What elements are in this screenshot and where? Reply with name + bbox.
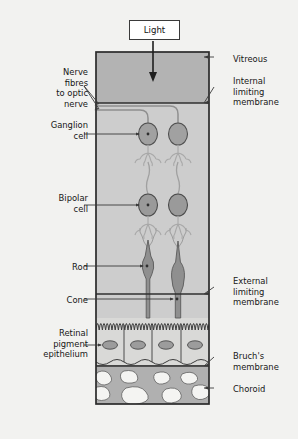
ganglion-cell-2 <box>169 123 188 145</box>
label-bipolar-cell: Bipolar cell <box>10 193 88 214</box>
label-retinal-pigment-epithelium: Retinal pigment epithelium <box>4 328 88 360</box>
rpe-nucleus-3 <box>159 341 174 349</box>
retina-diagram-svg <box>0 0 298 439</box>
label-vitreous: Vitreous <box>233 54 295 65</box>
label-internal-limiting-membrane: Internal limiting membrane <box>233 76 295 108</box>
rpe-nucleus-4 <box>188 341 203 349</box>
label-rod: Rod <box>10 262 88 273</box>
label-choroid: Choroid <box>233 384 295 395</box>
light-source-box: Light <box>129 20 180 40</box>
label-external-limiting-membrane: External limiting membrane <box>233 276 295 308</box>
label-nerve-fibres-to-optic-nerve: Nerve fibres to optic nerve <box>10 67 88 109</box>
rpe-nucleus-1 <box>103 341 118 349</box>
retina-diagram-figure: Light Nerve fibres to optic nerveGanglio… <box>0 0 298 439</box>
bipolar-cell-2 <box>169 194 188 216</box>
choroid-fill <box>96 366 209 404</box>
rpe-nucleus-2 <box>131 341 146 349</box>
label-ganglion-cell: Ganglion cell <box>10 120 88 141</box>
retinal-pigment-epithelium-layer <box>96 324 211 367</box>
light-label: Light <box>144 26 165 35</box>
label-cone: Cone <box>10 295 88 306</box>
label-bruchs-membrane: Bruch's membrane <box>233 351 295 372</box>
